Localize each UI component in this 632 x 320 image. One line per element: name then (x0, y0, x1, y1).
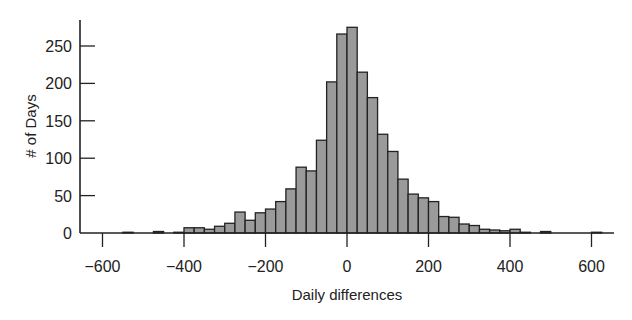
x-tick-label: 200 (415, 258, 442, 275)
histogram-bar (255, 213, 265, 233)
histogram-bar (347, 27, 357, 233)
histogram-bar (459, 224, 469, 233)
histogram-chart: −600−400−2000200400600 050100150200250 D… (0, 0, 632, 320)
histogram-bar (327, 82, 337, 233)
y-tick-label: 150 (45, 113, 72, 130)
x-axis-title: Daily differences (292, 286, 403, 303)
histogram-bar (469, 226, 479, 233)
histogram-bar (245, 220, 255, 233)
y-tick-label: 250 (45, 38, 72, 55)
histogram-bar (418, 198, 428, 233)
histogram-bar (215, 226, 225, 233)
y-tick-label: 50 (54, 188, 72, 205)
y-tick-label: 100 (45, 150, 72, 167)
histogram-bar (316, 140, 326, 233)
y-tick-label: 200 (45, 75, 72, 92)
histogram-bar (296, 167, 306, 233)
histogram-bar (225, 223, 235, 233)
histogram-bar (276, 202, 286, 233)
histogram-bar (429, 202, 439, 233)
histogram-bar (408, 194, 418, 233)
histogram-bar (337, 34, 347, 233)
histogram-bar (378, 134, 388, 233)
histogram-bar (266, 209, 276, 233)
histogram-bar (439, 217, 449, 233)
y-axis-title: # of Days (22, 94, 39, 157)
histogram-bar (286, 189, 296, 233)
x-tick-label: 0 (343, 258, 352, 275)
histogram-bar (357, 72, 367, 233)
histogram-bar (388, 151, 398, 233)
x-tick-label: −600 (84, 258, 120, 275)
x-tick-label: −200 (247, 258, 283, 275)
x-tick-label: 600 (578, 258, 605, 275)
histogram-bars (123, 27, 602, 233)
histogram-bar (398, 179, 408, 233)
y-axis-ticks: 050100150200250 (45, 38, 95, 242)
histogram-bar (367, 98, 377, 233)
x-tick-label: −400 (166, 258, 202, 275)
x-axis-ticks: −600−400−2000200400600 (84, 233, 604, 275)
histogram-bar (449, 217, 459, 233)
histogram-bar (306, 171, 316, 233)
x-tick-label: 400 (497, 258, 524, 275)
y-tick-label: 0 (63, 225, 72, 242)
histogram-bar (235, 212, 245, 233)
